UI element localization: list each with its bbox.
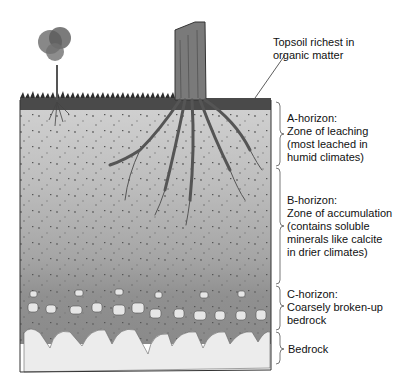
tree-stump (175, 22, 206, 100)
horizon-braces (276, 102, 284, 364)
b-horizon-label: B-horizon: Zone of accumulation (contain… (287, 194, 392, 259)
a-horizon-label: A-horizon: Zone of leaching (most leache… (287, 112, 368, 164)
soil-block (20, 100, 271, 344)
topsoil-label: Topsoil richest in organic matter (273, 36, 354, 62)
bedrock-label: Bedrock (288, 343, 328, 356)
c-horizon-label: C-horizon: Coarsely broken-up bedrock (287, 288, 383, 327)
